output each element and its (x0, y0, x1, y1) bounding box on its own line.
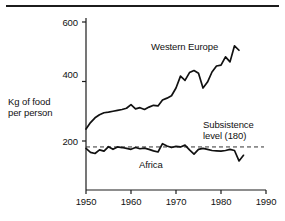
series-path-africa (86, 144, 244, 161)
x-tick-label-1990: 1990 (249, 196, 283, 207)
x-tick-label-1960: 1960 (114, 196, 148, 207)
x-tick-label-1970: 1970 (159, 196, 193, 207)
y-axis-title-line2: per person (8, 107, 52, 119)
chart-figure: 600 400 200 Kg of food per person 1950 1… (0, 0, 285, 221)
data-series-lines (86, 46, 244, 161)
subsistence-note-line1: Subsistence (203, 119, 254, 131)
y-axis-title-line1: Kg of food (8, 96, 50, 108)
x-tick-label-1950: 1950 (69, 196, 103, 207)
subsistence-note-line2: level (180) (203, 130, 246, 142)
series-label-western-europe: Western Europe (151, 41, 218, 52)
y-tick-label-200: 200 (46, 136, 78, 147)
series-label-africa: Africa (139, 159, 163, 170)
x-tick-label-1980: 1980 (204, 196, 238, 207)
y-tick-label-600: 600 (46, 17, 78, 28)
y-tick-label-400: 400 (46, 69, 78, 80)
series-path-western-europe (86, 46, 239, 129)
